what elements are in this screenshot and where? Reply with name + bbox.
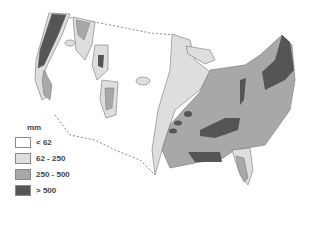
legend-item: > 500 [15,182,70,198]
legend-swatch [15,169,31,180]
region-light [65,40,75,46]
legend-swatch [15,153,31,164]
legend-unit: mm [27,123,70,134]
legend-swatch [15,137,31,148]
legend-label: < 62 [36,138,52,147]
legend-swatch [15,185,31,196]
region-heavy [169,129,177,134]
southern-border [55,115,155,175]
legend-item: 62 - 250 [15,150,70,166]
region-heavy [184,111,192,117]
legend-item: < 62 [15,134,70,150]
legend-label: 250 - 500 [36,170,70,179]
region-light [136,77,150,85]
legend-item: 250 - 500 [15,166,70,182]
map-legend: mm < 62 62 - 250 250 - 500 > 500 [15,123,70,198]
legend-label: > 500 [36,186,56,195]
region-heavy [98,55,104,68]
region-heavy [174,121,182,126]
legend-label: 62 - 250 [36,154,65,163]
